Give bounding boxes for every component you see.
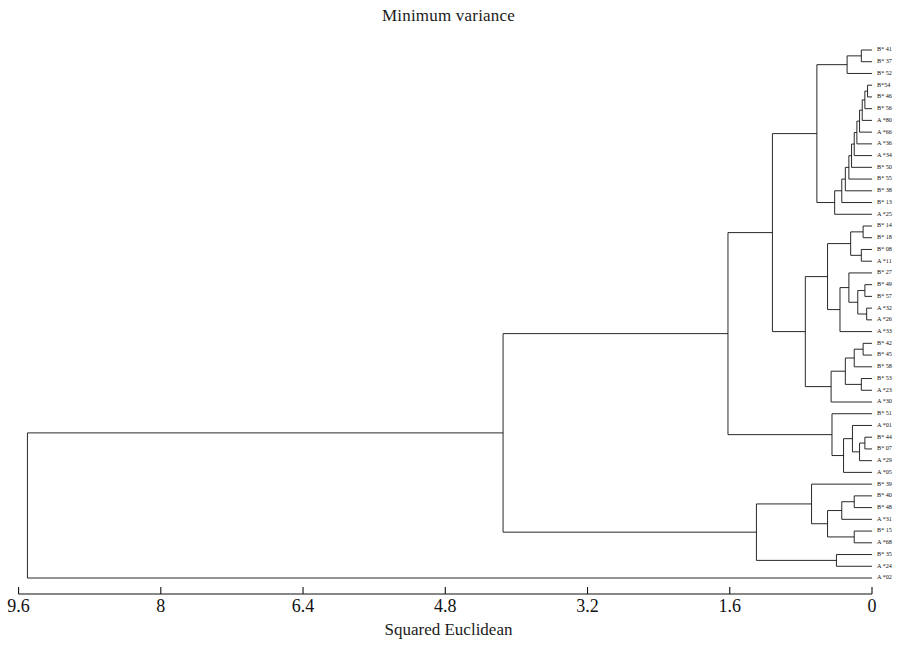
leaf-label: B* 48 — [877, 503, 892, 510]
leaf-label: A *29 — [877, 456, 892, 463]
leaf-label: B* 46 — [877, 92, 892, 99]
dendrogram-canvas: B* 41B* 37B* 52B*54B* 46B* 56A *80A *66A… — [0, 0, 897, 650]
x-axis: 9.686.44.83.21.60 — [7, 587, 876, 616]
leaf-label: A *36 — [877, 139, 892, 146]
leaf-label: B* 49 — [877, 280, 892, 287]
leaf-label: B* 44 — [877, 433, 892, 440]
axis-tick-label: 6.4 — [292, 596, 315, 616]
leaf-label: A *26 — [877, 315, 892, 322]
leaf-label: B* 57 — [877, 292, 892, 299]
leaf-label: A *31 — [877, 515, 892, 522]
leaf-label: B* 53 — [877, 374, 892, 381]
leaf-label: B* 51 — [877, 409, 892, 416]
leaf-label: A *66 — [877, 128, 892, 135]
leaf-label: B* 07 — [877, 444, 892, 451]
leaf-label: A *05 — [877, 468, 892, 475]
leaf-label: A *34 — [877, 151, 892, 158]
leaf-label: A *11 — [877, 257, 892, 264]
leaf-label-group: B* 41B* 37B* 52B*54B* 46B* 56A *80A *66A… — [877, 45, 892, 580]
x-axis-title: Squared Euclidean — [0, 620, 897, 640]
leaf-label: B* 18 — [877, 233, 892, 240]
leaf-label: A *33 — [877, 327, 892, 334]
axis-tick-label: 0 — [868, 596, 877, 616]
axis-tick-label: 3.2 — [576, 596, 599, 616]
axis-tick-label: 4.8 — [434, 596, 457, 616]
leaf-label: A *80 — [877, 116, 892, 123]
leaf-label: B* 45 — [877, 350, 892, 357]
leaf-label: B* 15 — [877, 526, 892, 533]
leaf-label: A *32 — [877, 304, 892, 311]
leaf-label: B* 40 — [877, 491, 892, 498]
leaf-label: B* 41 — [877, 45, 892, 52]
leaf-label: B* 37 — [877, 57, 892, 64]
leaf-label: B* 39 — [877, 480, 892, 487]
leaf-label: B*54 — [877, 81, 890, 88]
leaf-label: B* 14 — [877, 221, 892, 228]
leaf-label: A *25 — [877, 210, 892, 217]
leaf-label: A *23 — [877, 386, 892, 393]
leaf-label: A *02 — [877, 573, 892, 580]
leaf-label: B* 42 — [877, 339, 892, 346]
leaf-label: B* 27 — [877, 268, 892, 275]
axis-tick-label: 8 — [156, 596, 165, 616]
leaf-label: A *68 — [877, 538, 892, 545]
axis-tick-label: 1.6 — [719, 596, 742, 616]
leaf-label: B* 55 — [877, 174, 892, 181]
leaf-label: B* 13 — [877, 198, 892, 205]
leaf-label: B* 58 — [877, 362, 892, 369]
leaf-label: A *24 — [877, 562, 892, 569]
leaf-label: A *01 — [877, 421, 892, 428]
leaf-label: B* 50 — [877, 163, 892, 170]
leaf-label: B* 52 — [877, 69, 892, 76]
dendrogram-links — [27, 50, 872, 578]
leaf-label: B* 35 — [877, 550, 892, 557]
axis-tick-label: 9.6 — [7, 596, 30, 616]
leaf-label: B* 08 — [877, 245, 892, 252]
leaf-label: A *30 — [877, 397, 892, 404]
leaf-label: B* 38 — [877, 186, 892, 193]
leaf-label: B* 56 — [877, 104, 892, 111]
dendrogram-plot: B* 41B* 37B* 52B*54B* 46B* 56A *80A *66A… — [0, 0, 897, 650]
